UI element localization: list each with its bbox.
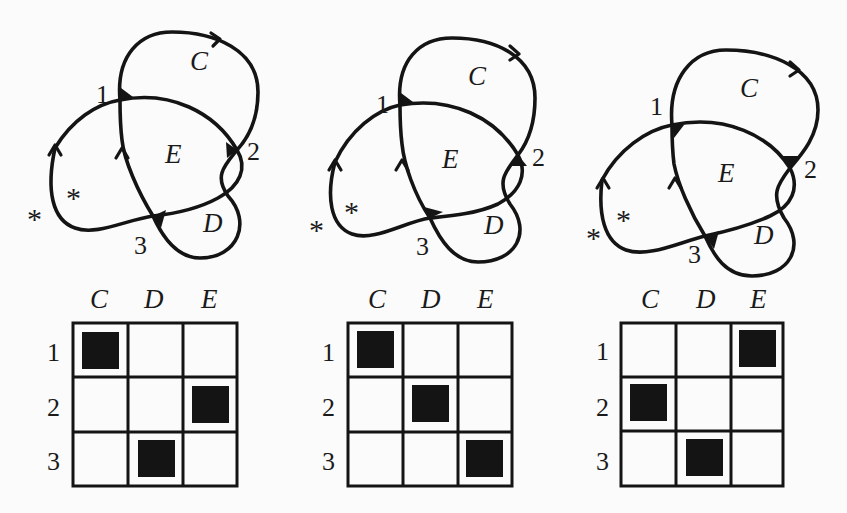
grid-cell-filled-1-c bbox=[357, 331, 394, 368]
arrow-up-inner-icon bbox=[116, 148, 128, 158]
basepoint-star-outer: * bbox=[586, 221, 601, 254]
crossing-label-1: 1 bbox=[376, 90, 389, 119]
region-label-e: E bbox=[441, 144, 459, 174]
region-label-d: D bbox=[483, 210, 504, 240]
crossing-label-1: 1 bbox=[96, 80, 109, 109]
state-grid: C D E 1 2 3 bbox=[322, 284, 512, 486]
grid-col-label-e: E bbox=[749, 284, 767, 314]
region-label-d: D bbox=[753, 220, 774, 250]
knot-strand-inner bbox=[120, 100, 153, 216]
marker-wedge-crossing-2 bbox=[780, 156, 801, 168]
grid-col-label-d: D bbox=[695, 284, 716, 314]
knot-state-figure: C E D 1 2 3 * * C D E 1 2 3 bbox=[0, 0, 847, 513]
state-grid: C D E 1 2 3 bbox=[47, 284, 237, 486]
crossing-label-3: 3 bbox=[134, 231, 147, 260]
grid-cell-filled-2-e bbox=[192, 386, 229, 423]
grid-row-label-2: 2 bbox=[596, 393, 609, 422]
region-label-c: C bbox=[190, 46, 209, 76]
state-grid: C D E 1 2 3 bbox=[596, 284, 783, 486]
grid-col-label-e: E bbox=[476, 284, 494, 314]
grid-row-label-1: 1 bbox=[47, 338, 60, 367]
grid-col-label-d: D bbox=[143, 284, 164, 314]
basepoint-star-inner: * bbox=[616, 203, 631, 236]
grid-cell-filled-2-c bbox=[630, 384, 667, 421]
trefoil-diagram: C E D 1 2 3 * * bbox=[586, 50, 818, 276]
region-label-c: C bbox=[740, 73, 759, 103]
basepoint-star-outer: * bbox=[27, 202, 42, 235]
grid-row-label-3: 3 bbox=[596, 447, 609, 476]
grid-col-label-c: C bbox=[90, 284, 109, 314]
basepoint-star-inner: * bbox=[66, 181, 81, 214]
panel-3: C E D 1 2 3 * * C D E 1 2 3 bbox=[586, 50, 818, 486]
region-label-e: E bbox=[717, 158, 735, 188]
grid-cell-filled-2-d bbox=[412, 385, 449, 422]
grid-row-label-3: 3 bbox=[47, 447, 60, 476]
grid-cell-filled-3-d bbox=[686, 439, 723, 476]
crossing-label-3: 3 bbox=[688, 240, 701, 269]
panel-2: C E D 1 2 3 * * C D E 1 2 3 bbox=[309, 38, 545, 486]
region-label-c: C bbox=[468, 61, 487, 91]
crossing-label-2: 2 bbox=[247, 137, 260, 166]
grid-row-label-1: 1 bbox=[322, 338, 335, 367]
basepoint-star-inner: * bbox=[344, 195, 359, 228]
crossing-label-3: 3 bbox=[416, 232, 429, 261]
grid-row-label-3: 3 bbox=[322, 447, 335, 476]
grid-col-label-e: E bbox=[200, 284, 218, 314]
region-label-d: D bbox=[202, 208, 223, 238]
grid-row-label-1: 1 bbox=[596, 337, 609, 366]
trefoil-diagram: C E D 1 2 3 * * bbox=[309, 38, 545, 262]
crossing-label-2: 2 bbox=[532, 143, 545, 172]
grid-row-label-2: 2 bbox=[322, 393, 335, 422]
grid-cell-filled-1-e bbox=[739, 330, 776, 367]
crossing-label-1: 1 bbox=[650, 92, 663, 121]
grid-cell-filled-3-e bbox=[466, 440, 503, 477]
grid-col-label-d: D bbox=[420, 284, 441, 314]
region-label-e: E bbox=[164, 139, 182, 169]
trefoil-diagram: C E D 1 2 3 * * bbox=[27, 32, 260, 260]
grid-cell-filled-1-c bbox=[82, 332, 119, 369]
grid-col-label-c: C bbox=[641, 284, 660, 314]
grid-cell-filled-3-d bbox=[138, 440, 175, 477]
panel-1: C E D 1 2 3 * * C D E 1 2 3 bbox=[27, 32, 260, 486]
grid-row-label-2: 2 bbox=[47, 393, 60, 422]
crossing-label-2: 2 bbox=[804, 155, 817, 184]
grid-col-label-c: C bbox=[368, 284, 387, 314]
knot-strand-top-loop bbox=[120, 32, 258, 258]
basepoint-star-outer: * bbox=[309, 213, 324, 246]
marker-wedge-crossing-1 bbox=[672, 125, 684, 138]
